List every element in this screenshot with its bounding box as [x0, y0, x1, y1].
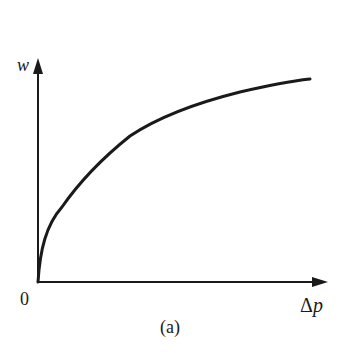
saturation-curve	[38, 79, 310, 282]
origin-label: 0	[20, 290, 29, 308]
x-axis-label-delta: Δ	[300, 294, 313, 316]
x-axis-label: Δp	[300, 295, 323, 315]
figure-caption: (a)	[160, 318, 180, 336]
x-axis-label-var: p	[313, 294, 323, 316]
figure: w 0 Δp (a)	[0, 0, 356, 353]
x-axis-arrow-icon	[312, 277, 328, 287]
y-axis-arrow-icon	[33, 58, 43, 74]
y-axis-label: w	[17, 56, 29, 74]
